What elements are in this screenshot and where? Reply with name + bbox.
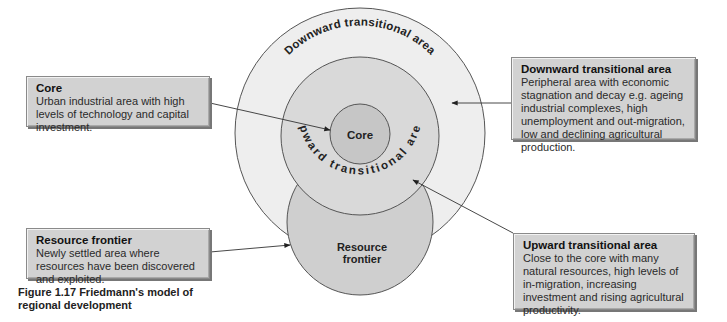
core-callout-desc: Urban industrial area with high levels o… (36, 95, 201, 134)
upward-callout: Upward transitional area Close to the co… (513, 233, 695, 310)
resource-frontier-callout-title: Resource frontier (36, 234, 201, 247)
resource-frontier-label-line1: Resource (337, 241, 387, 253)
downward-callout-title: Downward transitional area (521, 63, 687, 76)
upward-callout-title: Upward transitional area (523, 239, 686, 252)
core-callout: Core Urban industrial area with high lev… (26, 76, 210, 127)
figure-caption: Figure 1.17 Friedmann's model of regiona… (18, 286, 228, 312)
upward-callout-desc: Close to the core with many natural reso… (523, 252, 686, 317)
downward-callout: Downward transitional area Peripheral ar… (511, 57, 696, 140)
resource-frontier-label-line2: frontier (343, 253, 382, 265)
core-label: Core (347, 129, 373, 141)
core-callout-title: Core (36, 82, 201, 95)
downward-callout-desc: Peripheral area with economic stagnation… (521, 76, 687, 154)
resource-frontier-callout: Resource frontier Newly settled area whe… (26, 228, 210, 279)
resource-frontier-callout-desc: Newly settled area where resources have … (36, 247, 201, 286)
arrow-resource-frontier (210, 245, 290, 252)
